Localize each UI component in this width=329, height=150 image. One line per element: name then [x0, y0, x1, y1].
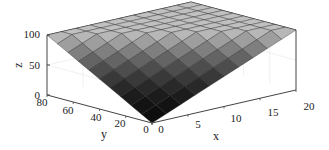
x-tick-10: 10	[231, 112, 243, 124]
x-tick-15: 15	[268, 106, 280, 118]
z-tick-100: 100	[24, 28, 41, 40]
z-tick-50: 50	[29, 59, 41, 71]
x-tick-20: 20	[304, 100, 316, 112]
z-axis-label: z	[11, 62, 25, 67]
z-axis-ticks: 100 50 0	[24, 28, 41, 101]
x-axis-label: x	[213, 129, 219, 143]
y-tick-0: 0	[143, 123, 149, 135]
x-tick-0: 0	[158, 123, 164, 135]
y-tick-80: 80	[37, 96, 49, 108]
y-tick-40: 40	[91, 111, 103, 123]
y-tick-60: 60	[63, 104, 75, 116]
x-tick-5: 5	[195, 118, 201, 130]
y-axis-label: y	[101, 127, 107, 141]
x-axis-ticks: 0 5 10 15 20	[158, 100, 315, 135]
y-tick-20: 20	[115, 117, 127, 129]
surface-chart: 100 50 0 z 80 60 40 20 0 y 0 5 10 15 20 …	[0, 0, 329, 150]
